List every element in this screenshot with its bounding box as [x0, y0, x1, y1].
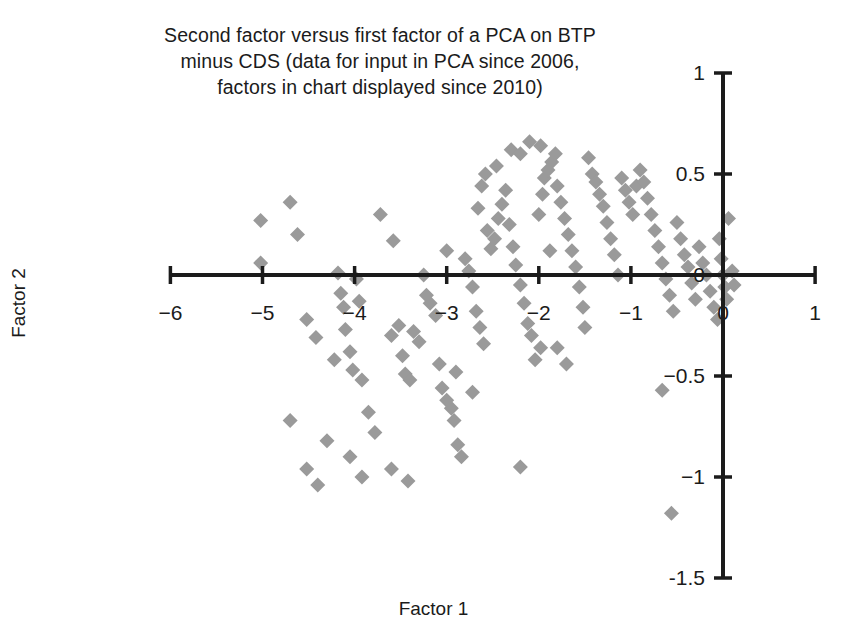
scatter-point	[572, 280, 587, 295]
x-tick-label: −4	[343, 301, 367, 325]
scatter-chart: Second factor versus first factor of a P…	[0, 0, 867, 628]
scatter-point	[622, 195, 637, 210]
scatter-point	[471, 201, 486, 216]
scatter-point	[454, 449, 469, 464]
scatter-point	[333, 286, 348, 301]
scatter-point	[592, 187, 607, 202]
scatter-point	[599, 215, 614, 230]
scatter-point	[692, 239, 707, 254]
scatter-point	[354, 470, 369, 485]
scatter-point	[581, 150, 596, 165]
data-markers	[253, 134, 741, 521]
scatter-point	[542, 243, 557, 258]
scatter-point	[513, 459, 528, 474]
scatter-point	[331, 265, 346, 280]
scatter-point	[361, 405, 376, 420]
scatter-point	[651, 239, 666, 254]
scatter-point	[342, 449, 357, 464]
scatter-point	[557, 211, 572, 226]
scatter-point	[290, 227, 305, 242]
scatter-point	[607, 247, 622, 262]
scatter-point	[283, 413, 298, 428]
y-tick-label: -1.5	[637, 566, 705, 590]
scatter-point	[283, 195, 298, 210]
scatter-point	[677, 247, 692, 262]
scatter-point	[513, 278, 528, 293]
scatter-point	[508, 257, 523, 272]
scatter-point	[478, 167, 493, 182]
x-tick-label: −3	[435, 301, 459, 325]
scatter-point	[327, 352, 342, 367]
scatter-point	[553, 195, 568, 210]
scatter-point	[603, 231, 618, 246]
scatter-point	[319, 433, 334, 448]
scatter-point	[386, 233, 401, 248]
x-tick-label: −1	[619, 301, 643, 325]
scatter-point	[647, 223, 662, 238]
scatter-point	[310, 478, 325, 493]
scatter-point	[476, 336, 491, 351]
scatter-point	[299, 461, 314, 476]
scatter-point	[253, 213, 268, 228]
scatter-point	[535, 187, 550, 202]
x-axis-title: Factor 1	[0, 598, 867, 620]
scatter-point	[568, 259, 583, 274]
scatter-point	[673, 231, 688, 246]
scatter-point	[550, 340, 565, 355]
scatter-point	[465, 385, 480, 400]
scatter-point	[448, 364, 463, 379]
scatter-point	[342, 344, 357, 359]
y-tick-label: 0.5	[637, 162, 705, 186]
scatter-point	[596, 199, 611, 214]
scatter-point	[435, 381, 450, 396]
scatter-point	[367, 425, 382, 440]
scatter-point	[506, 239, 521, 254]
scatter-point	[577, 320, 592, 335]
scatter-point	[472, 320, 487, 335]
scatter-point	[498, 183, 513, 198]
scatter-point	[474, 179, 489, 194]
scatter-point	[644, 207, 659, 222]
scatter-point	[384, 461, 399, 476]
x-tick-label: 0	[717, 301, 729, 325]
scatter-point	[640, 191, 655, 206]
x-tick-label: −2	[527, 301, 551, 325]
scatter-point	[299, 312, 314, 327]
scatter-point	[458, 251, 473, 266]
scatter-point	[664, 506, 679, 521]
x-tick-label: 1	[809, 301, 821, 325]
scatter-point	[354, 373, 369, 388]
scatter-point	[666, 304, 681, 319]
scatter-point	[345, 362, 360, 377]
y-tick-label: −1	[637, 465, 705, 489]
scatter-point	[688, 292, 703, 307]
scatter-point	[669, 215, 684, 230]
scatter-point	[308, 330, 323, 345]
y-tick-label: 0	[637, 263, 705, 287]
scatter-point	[469, 304, 484, 319]
scatter-point	[524, 328, 539, 343]
y-axis-title: Factor 2	[8, 248, 30, 358]
scatter-point	[447, 413, 462, 428]
x-tick-label: −6	[158, 301, 182, 325]
x-tick-label: −5	[251, 301, 275, 325]
scatter-point	[614, 171, 629, 186]
scatter-point	[561, 227, 576, 242]
scatter-point	[373, 207, 388, 222]
scatter-point	[489, 158, 504, 173]
y-tick-label: −0.5	[637, 364, 705, 388]
scatter-point	[432, 356, 447, 371]
scatter-point	[494, 197, 509, 212]
scatter-point	[559, 356, 574, 371]
scatter-point	[439, 243, 454, 258]
scatter-point	[625, 207, 640, 222]
scatter-point	[253, 255, 268, 270]
y-tick-label: 1	[637, 61, 705, 85]
scatter-point	[531, 207, 546, 222]
scatter-point	[564, 243, 579, 258]
scatter-point	[401, 474, 416, 489]
scatter-point	[465, 280, 480, 295]
scatter-point	[395, 348, 410, 363]
plot-area	[0, 0, 867, 628]
scatter-point	[576, 300, 591, 315]
